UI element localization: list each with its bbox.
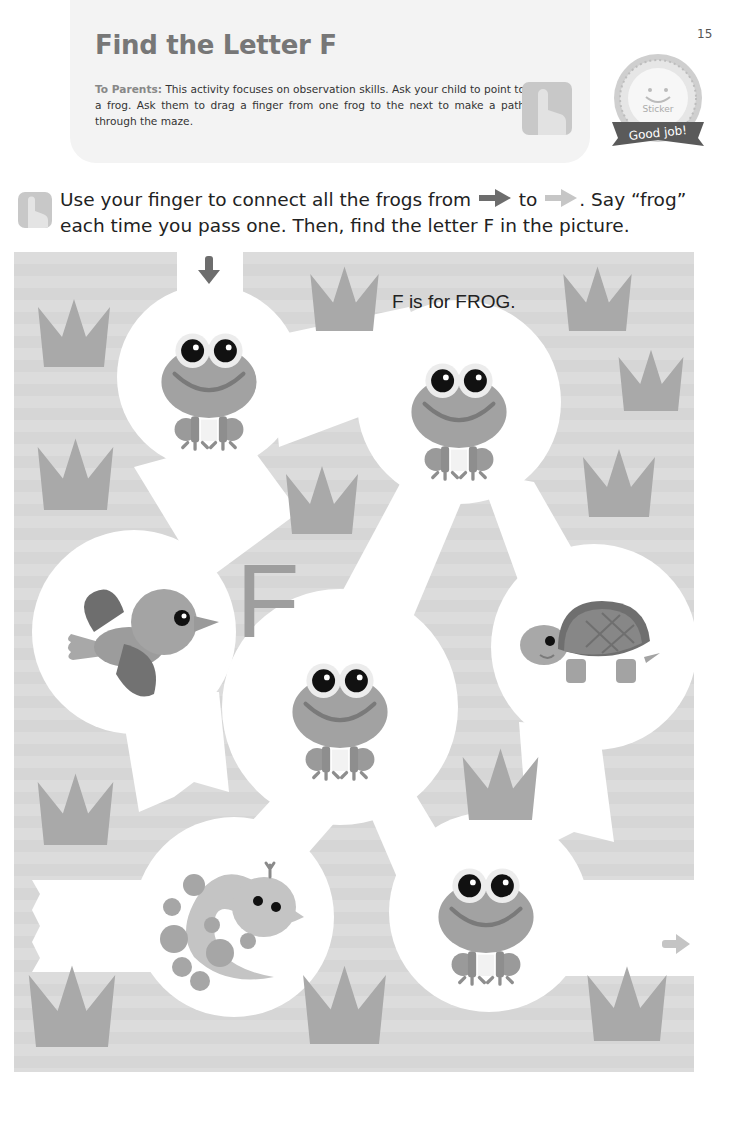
instructions-text-1: Use your finger to connect all the frogs… (60, 189, 477, 210)
frog-2 (411, 364, 506, 480)
instruction-finger-icon (18, 192, 52, 228)
finger-icon (522, 82, 572, 135)
instructions: Use your finger to connect all the frogs… (60, 188, 730, 238)
sticker-label: Sticker (643, 104, 674, 114)
frog-3 (292, 664, 387, 780)
maze-caption: F is for FROG. (392, 291, 516, 313)
sticker-badge: Sticker Good job! (606, 50, 710, 154)
instructions-text-2: to (513, 189, 543, 210)
page-title: Find the Letter F (95, 30, 337, 60)
frog-1 (161, 334, 256, 450)
maze-picture[interactable]: F (14, 252, 694, 1072)
parents-label: To Parents: (95, 83, 162, 95)
start-arrow-icon (477, 188, 513, 214)
end-arrow-icon (543, 188, 579, 214)
frog-4 (438, 869, 533, 985)
hidden-letter-f[interactable]: F (236, 543, 300, 659)
page-number: 15 (697, 27, 712, 41)
parents-note: To Parents: This activity focuses on obs… (95, 81, 525, 129)
